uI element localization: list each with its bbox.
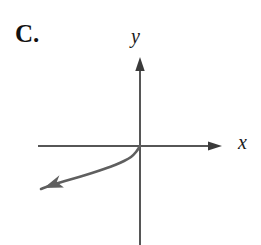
x-axis-label: x <box>238 132 247 152</box>
y-axis-label: y <box>131 26 140 46</box>
figure-container: C. y x <box>0 0 261 245</box>
figure-label: C. <box>15 21 39 46</box>
arrow-right-icon <box>208 142 222 151</box>
arrow-up-icon <box>135 57 144 71</box>
